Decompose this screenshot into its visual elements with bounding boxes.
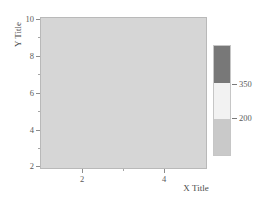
x-axis-title: X Title xyxy=(183,183,208,193)
y-tick-label-6: 6 xyxy=(20,89,34,98)
y-tick-label-4: 4 xyxy=(20,126,34,135)
y-tick-label-8: 8 xyxy=(20,52,34,61)
y-tick-mark-10 xyxy=(36,19,40,20)
x-tick-label-2: 2 xyxy=(80,175,84,184)
y-tick-label-2: 2 xyxy=(20,162,34,171)
y-axis-title: Y Title xyxy=(13,22,23,47)
colorbar-band-high xyxy=(214,46,230,83)
y-tick-mark-5 xyxy=(38,111,40,112)
x-tick-mark-4 xyxy=(164,169,165,173)
plot-area xyxy=(40,17,207,169)
figure-canvas: 2 4 10 8 6 4 2 X Title Y Title 350 200 xyxy=(0,0,273,204)
x-tick-mark-2 xyxy=(82,169,83,173)
colorbar-tick-mark-200 xyxy=(232,118,237,119)
y-tick-mark-3 xyxy=(38,148,40,149)
x-tick-mark-3 xyxy=(123,169,124,171)
y-tick-mark-9 xyxy=(38,37,40,38)
colorbar-tick-mark-350 xyxy=(232,84,237,85)
colorbar-tick-label-350: 350 xyxy=(239,79,252,89)
x-tick-label-4: 4 xyxy=(162,175,166,184)
y-tick-mark-7 xyxy=(38,74,40,75)
colorbar-band-mid xyxy=(214,83,230,119)
y-tick-mark-6 xyxy=(36,93,40,94)
y-tick-mark-4 xyxy=(36,130,40,131)
y-tick-mark-2 xyxy=(36,166,40,167)
y-tick-mark-8 xyxy=(36,56,40,57)
colorbar-tick-label-200: 200 xyxy=(239,113,252,123)
colorbar-band-low xyxy=(214,119,230,155)
colorbar xyxy=(213,45,231,156)
